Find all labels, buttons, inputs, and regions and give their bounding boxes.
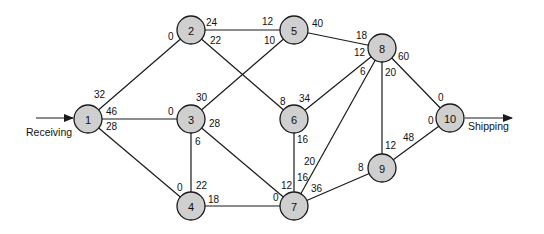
capacity-label: 34 xyxy=(299,93,311,104)
capacity-label: 12 xyxy=(281,180,293,191)
nodes-layer: 12345678910 xyxy=(74,16,464,220)
node-label: 5 xyxy=(291,25,297,37)
capacity-label: 28 xyxy=(209,118,221,129)
edge-1-2 xyxy=(88,30,191,119)
node-label: 3 xyxy=(188,114,194,126)
capacity-label: 0 xyxy=(438,92,444,103)
capacity-label: 24 xyxy=(206,17,218,28)
node-label: 9 xyxy=(379,163,385,175)
capacity-label: 6 xyxy=(360,66,366,77)
capacity-label: 48 xyxy=(403,132,415,143)
capacity-label: 18 xyxy=(356,30,368,41)
node-5: 5 xyxy=(280,16,308,44)
capacity-label: 8 xyxy=(358,162,364,173)
node-label: 2 xyxy=(188,25,194,37)
capacity-label: 22 xyxy=(210,35,222,46)
capacity-label: 40 xyxy=(312,18,324,29)
capacity-label: 0 xyxy=(168,106,174,117)
node-label: 8 xyxy=(379,43,385,55)
capacity-label: 12 xyxy=(262,16,274,27)
capacity-label: 10 xyxy=(264,35,276,46)
node-9: 9 xyxy=(368,154,396,182)
capacity-label: 22 xyxy=(196,180,208,191)
capacity-label: 16 xyxy=(297,134,309,145)
capacity-label: 12 xyxy=(354,47,366,58)
node-4: 4 xyxy=(177,192,205,220)
capacity-label: 28 xyxy=(106,121,118,132)
capacity-label: 32 xyxy=(94,89,106,100)
node-label: 4 xyxy=(188,201,194,213)
edge-6-8 xyxy=(294,48,382,119)
node-3: 3 xyxy=(177,105,205,133)
capacity-label: 0 xyxy=(177,182,183,193)
edges-layer xyxy=(88,30,450,206)
shipping-label: Shipping xyxy=(468,120,509,132)
capacity-label: 18 xyxy=(208,194,220,205)
capacity-label: 16 xyxy=(297,172,309,183)
node-6: 6 xyxy=(280,105,308,133)
node-label: 10 xyxy=(444,113,456,125)
network-diagram: Receiving Shipping 12345678910 324628024… xyxy=(0,0,544,234)
node-2: 2 xyxy=(177,16,205,44)
capacity-label: 46 xyxy=(106,106,118,117)
node-label: 6 xyxy=(291,114,297,126)
capacity-label: 0 xyxy=(168,31,174,42)
node-label: 7 xyxy=(291,201,297,213)
capacity-label: 0 xyxy=(273,192,279,203)
capacity-label: 8 xyxy=(280,96,286,107)
capacity-label: 6 xyxy=(195,136,201,147)
capacity-label: 12 xyxy=(385,140,397,151)
node-8: 8 xyxy=(368,34,396,62)
node-7: 7 xyxy=(280,192,308,220)
capacity-label: 20 xyxy=(385,67,397,78)
capacity-label: 20 xyxy=(304,156,316,167)
capacity-label: 0 xyxy=(428,115,434,126)
capacity-label: 30 xyxy=(196,92,208,103)
node-10: 10 xyxy=(436,104,464,132)
edge-1-4 xyxy=(88,119,191,206)
capacity-label: 36 xyxy=(311,183,323,194)
capacity-label: 60 xyxy=(398,51,410,62)
node-1: 1 xyxy=(74,105,102,133)
receiving-label: Receiving xyxy=(26,126,72,138)
node-label: 1 xyxy=(85,114,91,126)
